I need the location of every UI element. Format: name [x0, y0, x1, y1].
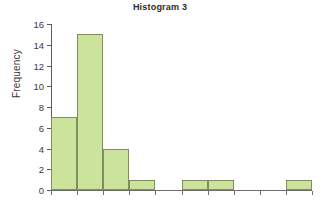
histogram-bar [77, 34, 103, 190]
x-tick-mark [103, 191, 104, 195]
x-tick-mark [260, 191, 261, 195]
x-tick-mark [208, 191, 209, 195]
x-tick-mark [51, 191, 52, 195]
histogram-bar [182, 180, 208, 190]
y-tick-label: 10 [20, 81, 44, 92]
page-title: Histogram 3 [0, 2, 320, 12]
y-axis-label: Frequency [11, 14, 22, 134]
x-tick-mark [129, 191, 130, 195]
y-tick-label: 12 [20, 60, 44, 71]
x-tick-mark [182, 191, 183, 195]
x-tick-mark [234, 191, 235, 195]
y-tick-mark [47, 24, 51, 25]
y-tick-label: 6 [20, 122, 44, 133]
y-tick-label: 16 [20, 19, 44, 30]
y-tick-label: 2 [20, 164, 44, 175]
histogram-bar [51, 117, 77, 190]
y-tick-label: 8 [20, 102, 44, 113]
y-tick-label: 4 [20, 143, 44, 154]
x-tick-mark [312, 191, 313, 195]
y-tick-mark [47, 86, 51, 87]
histogram-bar [129, 180, 155, 190]
x-tick-mark [286, 191, 287, 195]
histogram-bar [208, 180, 234, 190]
x-tick-mark [77, 191, 78, 195]
histogram-figure: Histogram 3 Frequency 0246810121416 [0, 0, 320, 218]
y-tick-mark [47, 45, 51, 46]
y-tick-label: 0 [20, 185, 44, 196]
y-tick-mark [47, 107, 51, 108]
histogram-bar [103, 149, 129, 191]
y-tick-label: 14 [20, 39, 44, 50]
y-tick-mark [47, 66, 51, 67]
plot-area: 0246810121416 [51, 24, 312, 190]
histogram-bar [286, 180, 312, 190]
x-tick-mark [155, 191, 156, 195]
